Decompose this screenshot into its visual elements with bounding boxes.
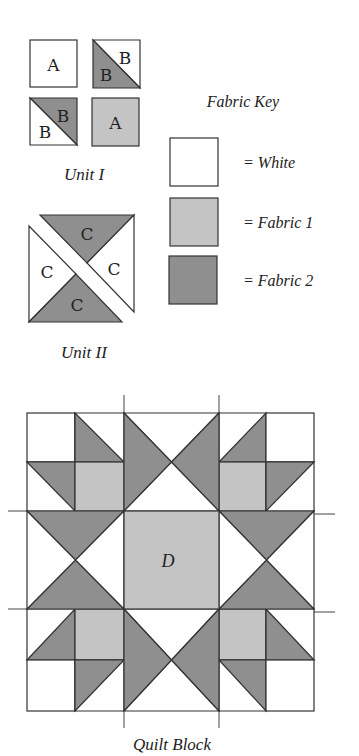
unit1-title: Unit I xyxy=(64,165,105,184)
unit1-hst-b-top: B B xyxy=(93,40,140,88)
quilt-corner-top-right xyxy=(219,413,314,511)
unit1-hst-top-label-white: B xyxy=(119,48,132,68)
quilt-edge-left xyxy=(27,511,124,609)
unit2-title: Unit II xyxy=(61,343,108,362)
unit2-label-bottom: C xyxy=(70,295,83,315)
fabric-key-label-fabric2: = Fabric 2 xyxy=(243,272,313,289)
unit2-label-top: C xyxy=(80,224,93,244)
quilt-edge-top xyxy=(124,413,219,511)
quilt-edge-bottom xyxy=(124,609,219,711)
unit1-label-a-white: A xyxy=(46,55,60,75)
quilt-corner-bottom-left xyxy=(27,609,124,711)
quilt-pattern-diagram: A B B B B A Unit I Fabric Key = White = … xyxy=(0,0,359,756)
unit2-group: C C C C Unit II xyxy=(29,215,134,362)
fabric-key-swatch-white xyxy=(170,138,218,186)
unit1-hst-b-bottom: B B xyxy=(30,98,77,145)
unit2-label-left: C xyxy=(40,262,53,282)
quilt-edge-right xyxy=(219,511,314,609)
unit1-hst-top-label-dark: B xyxy=(100,65,113,85)
unit1-label-a-fabric1: A xyxy=(108,113,122,133)
unit1-hst-bottom-label-dark: B xyxy=(57,106,70,126)
fabric-key-label-white: = White xyxy=(243,154,295,171)
quilt-corner-bottom-right xyxy=(219,609,314,711)
fabric-key-swatch-fabric2 xyxy=(169,256,217,304)
unit1-hst-bottom-label-white: B xyxy=(39,122,52,142)
unit1-group: A B B B B A Unit I xyxy=(30,40,140,184)
unit2-label-right: C xyxy=(107,259,120,279)
fabric-key: Fabric Key = White = Fabric 1 = Fabric 2 xyxy=(169,93,313,304)
quilt-corner-top-left xyxy=(27,413,124,511)
quilt-center-label: D xyxy=(161,551,175,571)
fabric-key-title: Fabric Key xyxy=(206,93,280,111)
quilt-block: D Quilt Block xyxy=(8,395,335,754)
quilt-block-title: Quilt Block xyxy=(133,735,211,754)
fabric-key-label-fabric1: = Fabric 1 xyxy=(243,214,313,231)
fabric-key-swatch-fabric1 xyxy=(170,198,218,246)
